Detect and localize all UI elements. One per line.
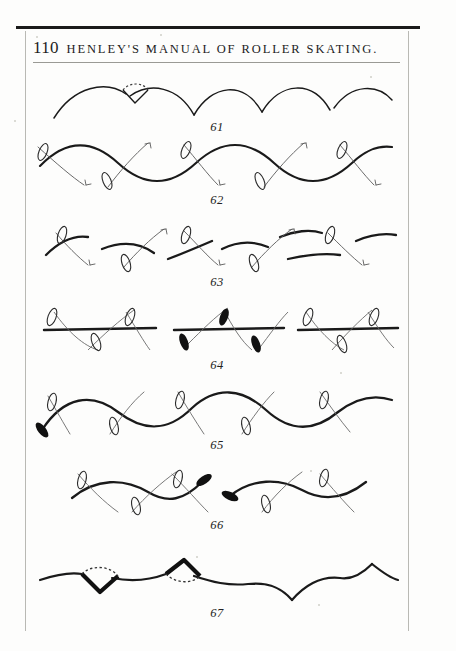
figure-65: 65: [26, 380, 408, 453]
figure-67: 67: [26, 548, 408, 621]
cusp-up-67: [166, 560, 200, 582]
scan-speck: [318, 604, 320, 606]
running-head: 110 HENLEY'S MANUAL OF ROLLER SKATING.: [33, 38, 400, 60]
scan-speck: [160, 34, 162, 36]
scan-speck: [196, 556, 198, 558]
book-page-scan: 110 HENLEY'S MANUAL OF ROLLER SKATING. 6…: [0, 0, 456, 651]
figure-63-drawing: [26, 215, 408, 277]
figure-64-drawing: [26, 300, 408, 360]
scan-speck: [340, 372, 342, 374]
figure-caption: 66: [26, 518, 408, 533]
figure-67-drawing: [26, 548, 408, 608]
figure-66-drawing: [26, 460, 408, 520]
figure-caption: 63: [26, 275, 408, 290]
figure-61: 61: [26, 70, 408, 135]
scan-speck: [14, 120, 16, 122]
figure-61-drawing: [26, 70, 408, 122]
page-title: HENLEY'S MANUAL OF ROLLER SKATING.: [59, 42, 400, 57]
page-number: 110: [33, 38, 59, 58]
figure-caption: 65: [26, 438, 408, 453]
scan-speck: [36, 36, 38, 38]
figure-caption: 62: [26, 193, 408, 208]
scan-speck: [370, 76, 372, 78]
figure-66: 66: [26, 460, 408, 533]
figure-65-drawing: [26, 380, 408, 440]
figure-63: 63: [26, 215, 408, 290]
top-rule: [16, 26, 420, 29]
figure-caption: 64: [26, 358, 408, 373]
figure-62-drawing: [26, 133, 408, 195]
figure-62: 62: [26, 133, 408, 208]
figure-64: 64: [26, 300, 408, 373]
page-border-right: [408, 31, 409, 631]
cusp-down-67: [82, 567, 118, 592]
scan-speck: [310, 470, 312, 472]
dashed-foot-outline-61: [123, 84, 148, 103]
figure-caption: 67: [26, 606, 408, 621]
header-rule: [33, 62, 400, 63]
